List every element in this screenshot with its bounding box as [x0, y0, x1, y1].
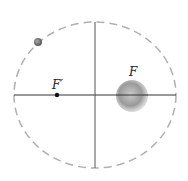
planet-icon	[116, 80, 148, 112]
planet-focus-label: F	[129, 66, 137, 78]
empty-focus-dot	[55, 93, 59, 97]
orbit-diagram	[0, 0, 188, 181]
moon-icon	[34, 38, 42, 46]
empty-focus-label: F′	[52, 79, 63, 91]
